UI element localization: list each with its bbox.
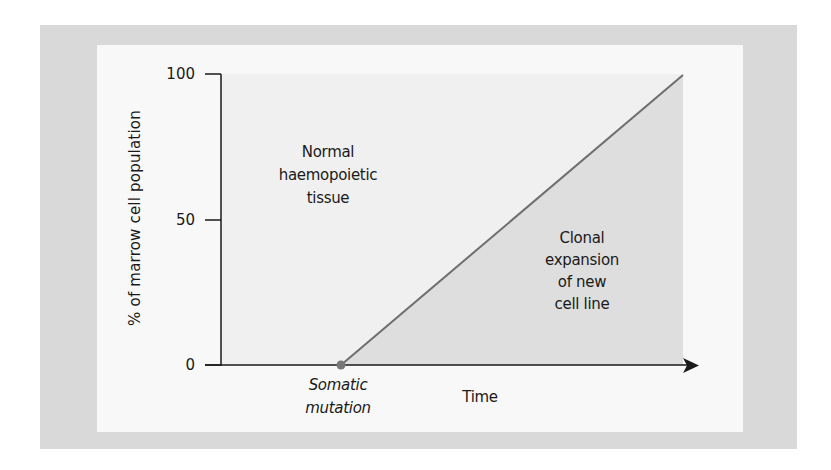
clonal-region-line: of new [545,271,619,293]
x-axis-label: Time [462,386,498,409]
normal-region-label: Normal haemopoietic tissue [279,141,378,210]
y-tick-label-50: 50 [155,211,195,229]
clonal-region-label: Clonal expansion of new cell line [545,227,619,315]
chart-plot [0,0,831,470]
mutation-point-label: Somatic mutation [305,374,371,420]
y-tick-label-100: 100 [155,65,195,83]
clonal-region-line: expansion [545,249,619,271]
normal-region-line: Normal [279,141,378,164]
normal-region-line: haemopoietic [279,164,378,187]
y-axis-label: % of marrow cell population [126,110,144,326]
clonal-region-line: cell line [545,293,619,315]
mutation-point-dot [337,361,346,370]
normal-region-line: tissue [279,187,378,210]
mutation-label-line: mutation [305,397,371,420]
mutation-label-line: Somatic [305,374,371,397]
y-tick-label-0: 0 [155,356,195,374]
clonal-region-line: Clonal [545,227,619,249]
